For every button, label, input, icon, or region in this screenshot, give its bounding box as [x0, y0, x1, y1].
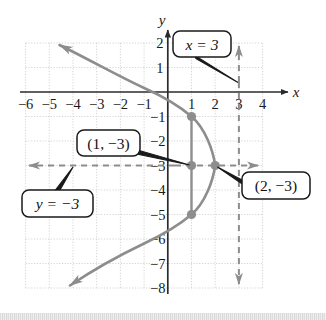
x-tick-labels: −6 −5 −4 −3 −2 −1 1 2 3 4	[18, 96, 267, 112]
callout-label-point-2: (2, −3)	[255, 177, 297, 195]
y-tick-label: −1	[150, 109, 165, 125]
y-axis-label: y	[157, 12, 166, 28]
y-tick-label: 1	[156, 60, 163, 76]
y-tick-label: −5	[150, 207, 165, 223]
x-tick-label: 4	[259, 96, 267, 112]
point-marker	[187, 112, 196, 121]
callout-y-equals-minus-3[interactable]: y = −3	[22, 190, 93, 217]
y-tick-label: −7	[150, 256, 165, 272]
leader-x-equals-3	[194, 55, 238, 83]
x-tick-label: −5	[42, 96, 57, 112]
callout-label-point-1: (1, −3)	[87, 135, 129, 153]
scan-artifact-strip	[0, 313, 326, 320]
point-marker	[211, 161, 220, 170]
x-tick-label: −3	[89, 96, 104, 112]
x-tick-label: 1	[188, 96, 195, 112]
figure-container: x y −6 −5 −4 −3 −2 −1 1 2 3 4 2 1 −1 −2 …	[0, 0, 326, 320]
callout-point-1[interactable]: (1, −3)	[77, 130, 140, 156]
x-tick-label: −4	[65, 96, 81, 112]
callout-point-2[interactable]: (2, −3)	[242, 172, 310, 199]
point-marker	[187, 210, 196, 219]
callout-label-x-equals-3: x = 3	[185, 36, 219, 53]
x-tick-label: 2	[212, 96, 219, 112]
x-tick-label: −6	[18, 96, 33, 112]
x-axis-label: x	[292, 84, 300, 100]
y-tick-label: −4	[150, 182, 166, 198]
callout-x-equals-3[interactable]: x = 3	[173, 31, 231, 57]
y-tick-label: 2	[156, 35, 163, 51]
y-tick-label: −2	[150, 133, 165, 149]
parabola-curve-lower	[70, 166, 215, 286]
graph-canvas: x y −6 −5 −4 −3 −2 −1 1 2 3 4 2 1 −1 −2 …	[0, 0, 326, 320]
point-marker	[187, 161, 196, 170]
x-tick-label: −2	[113, 96, 128, 112]
callout-label-y-equals-minus-3: y = −3	[34, 195, 80, 212]
y-tick-label: −8	[150, 280, 165, 296]
leader-y-equals-minus-3	[54, 167, 73, 193]
